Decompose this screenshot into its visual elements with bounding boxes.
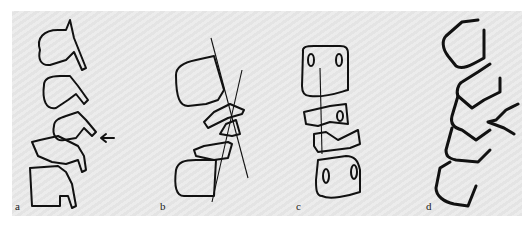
vertebra-c1 [302,46,348,96]
panel-d-drawing [436,20,518,206]
midline [320,68,322,154]
vertebra-d5 [436,162,476,206]
fracture-fragment [488,104,518,134]
vertebra-a2 [44,76,89,108]
vertebra-d1 [443,20,484,68]
figure-drawings [0,0,532,226]
vertebra-a5 [30,166,76,208]
reference-line-1 [211,38,248,178]
vertebra-d2 [457,64,500,108]
panel-b-drawing [175,38,248,202]
panel-label-c: c [296,200,301,212]
vertebra-d3 [451,96,490,140]
vertebra-b4 [194,142,232,160]
arrow-icon [101,134,114,142]
vertebra-a1 [39,20,86,70]
panel-label-d: d [426,200,432,212]
vertebra-b1 [176,56,224,106]
panel-a-drawing [30,20,114,208]
panel-c-drawing [302,46,360,198]
panel-label-b: b [160,200,166,212]
vertebra-b3 [220,120,240,136]
vertebra-c3 [314,130,360,152]
panel-label-a: a [15,200,20,212]
vertebra-c2 [304,104,348,126]
vertebra-b5 [175,160,216,196]
